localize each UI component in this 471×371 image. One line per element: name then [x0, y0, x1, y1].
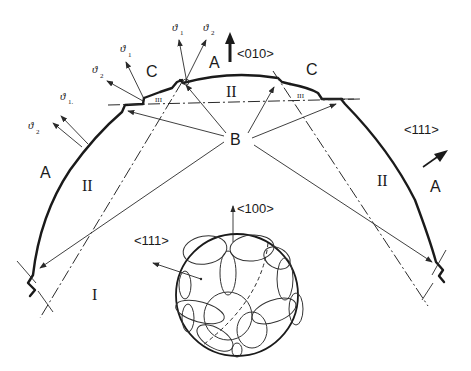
label-sector-ii-right: II: [377, 172, 388, 189]
svg-text:2: 2: [36, 128, 40, 136]
label-sector-i: I: [92, 286, 97, 303]
label-direction-100-inset: <100>: [237, 201, 274, 216]
label-direction-010: <010>: [237, 46, 274, 61]
left-arc-vectors: [53, 116, 88, 147]
label-region-a-left: A: [40, 164, 51, 181]
vector-label-step-1: ϑ 1: [120, 42, 132, 59]
left-step-vectors: [107, 62, 144, 101]
svg-text:ϑ: ϑ: [120, 42, 126, 54]
label-sector-iii-left: III: [155, 96, 163, 104]
direction-111-right-arrowhead: [434, 150, 448, 162]
svg-text:1: 1: [128, 51, 132, 59]
vector-label-left-1: ϑ 1.: [60, 90, 74, 106]
inset-sphere: [153, 206, 303, 357]
dash-dot-right: [273, 71, 428, 306]
direction-010-arrowhead: [225, 32, 235, 44]
label-region-c-left: C: [146, 63, 158, 80]
label-region-c-right: C: [306, 61, 318, 78]
svg-text:ϑ: ϑ: [60, 90, 66, 102]
label-direction-111-inset: <111>: [134, 233, 169, 248]
label-region-b: B: [230, 131, 241, 148]
vector-label-left-2: ϑ 2: [28, 119, 40, 136]
svg-text:2: 2: [100, 72, 104, 80]
svg-text:ϑ: ϑ: [172, 21, 178, 33]
label-region-a-top: A: [209, 54, 220, 71]
svg-text:1.: 1.: [68, 98, 74, 106]
svg-text:2: 2: [211, 29, 215, 37]
vector-label-top-1: ϑ 1: [172, 21, 184, 37]
label-region-a-right: A: [430, 178, 441, 195]
vector-label-step-2: ϑ 2: [92, 63, 104, 80]
dash-dot-left: [40, 82, 182, 318]
svg-text:ϑ: ϑ: [203, 21, 209, 33]
direction-111-inset-arrow: [153, 263, 201, 279]
svg-text:ϑ: ϑ: [28, 119, 34, 131]
crystal-growth-diagram: <010> <111> <111> <100> A A A B C C I II…: [0, 0, 471, 371]
svg-text:ϑ: ϑ: [92, 63, 98, 75]
label-sector-iii-right: III: [297, 92, 305, 100]
label-sector-ii-left: II: [82, 177, 93, 194]
label-sector-ii-center: II: [226, 83, 237, 100]
label-direction-111-right: <111>: [404, 122, 439, 137]
svg-text:1: 1: [180, 29, 184, 37]
vector-label-top-2: ϑ 2: [203, 21, 215, 37]
tick-right-lower: [422, 283, 433, 300]
